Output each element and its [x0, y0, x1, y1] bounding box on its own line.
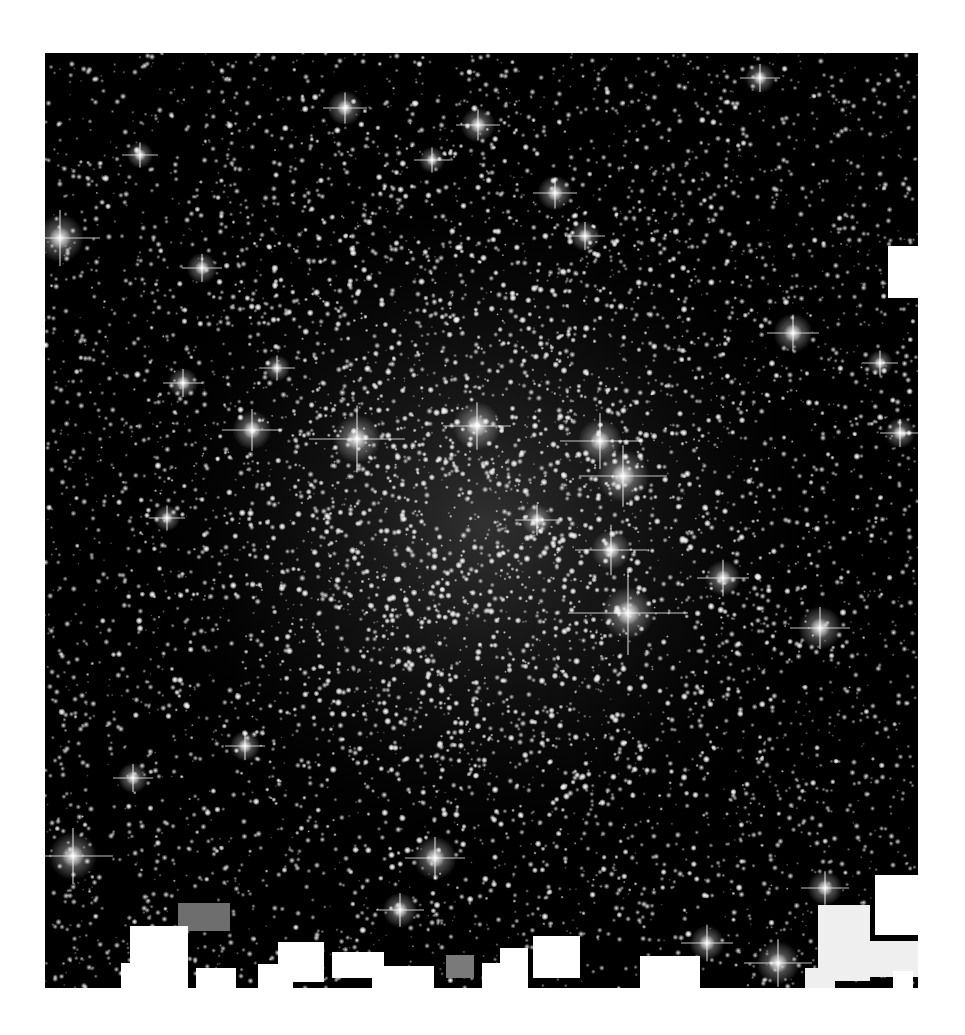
mask-rectangle	[372, 966, 434, 988]
mask-rectangle	[446, 955, 474, 978]
mask-rectangle	[121, 963, 166, 988]
mask-rectangle	[888, 246, 918, 298]
mask-rectangle	[640, 956, 700, 988]
mask-rectangle	[875, 875, 918, 935]
mask-rectangle	[533, 936, 580, 978]
mask-rectangle	[500, 948, 528, 988]
mask-rectangle	[278, 942, 324, 982]
star-field	[45, 53, 918, 988]
star-cluster-image	[45, 53, 918, 988]
mask-rectangle	[196, 968, 236, 988]
mask-rectangle	[893, 971, 913, 988]
